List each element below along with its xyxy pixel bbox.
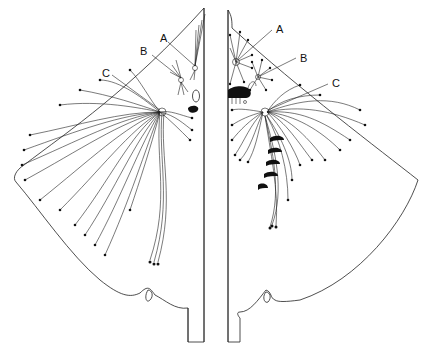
right-label-a: A: [276, 23, 284, 35]
right-nerve-a-b: [230, 32, 272, 90]
left-label-a: A: [160, 32, 168, 44]
right-pelvic-fin: [264, 292, 270, 302]
left-dark-organ: [188, 106, 198, 113]
left-nerve-c: [22, 70, 192, 262]
left-pelvic-fin: [146, 290, 152, 301]
left-body-outline: [14, 8, 204, 342]
left-nerve-ends: [21, 69, 194, 266]
left-panel: [14, 8, 204, 342]
left-label-b: B: [140, 45, 147, 57]
right-label-c: C: [332, 77, 340, 89]
right-label-b: B: [300, 52, 307, 64]
left-oval-organ: [193, 90, 200, 102]
right-nerve-c: [232, 85, 365, 227]
right-dark-organ: [228, 86, 251, 98]
right-panel: [228, 10, 418, 342]
left-label-leaders: [112, 42, 195, 110]
left-label-c: C: [102, 67, 110, 79]
diagram-canvas: A B C: [0, 0, 427, 358]
right-body-outline: [228, 10, 418, 342]
right-dark-organs: [258, 136, 284, 190]
